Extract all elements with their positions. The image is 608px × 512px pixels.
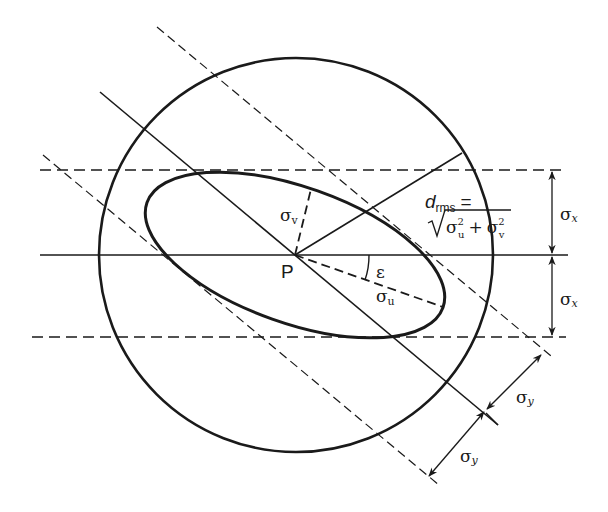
error-ellipse-diagram: P σv ε σu drms= σ2u+σ2v σx σx σy σy [0, 0, 608, 512]
diagonal-axis [100, 92, 498, 425]
epsilon-arc [365, 255, 369, 280]
epsilon-label: ε [376, 262, 385, 282]
lower-sigma-y-line [43, 155, 439, 485]
sigma-y-upper-label: σy [516, 387, 535, 408]
point-p-label: P [281, 261, 294, 282]
svg-text:σ2u+σ2v: σ2u+σ2v [446, 216, 505, 240]
sigma-y-lower-label: σy [460, 446, 479, 467]
upper-sigma-y-line [157, 27, 551, 356]
drms-label: drms= [425, 191, 472, 215]
diagonal-end-tick [486, 413, 498, 425]
sigma-x-lower-label: σx [560, 289, 579, 310]
sigma-v-label: σv [280, 205, 299, 227]
sigma-x-upper-label: σx [560, 204, 579, 225]
